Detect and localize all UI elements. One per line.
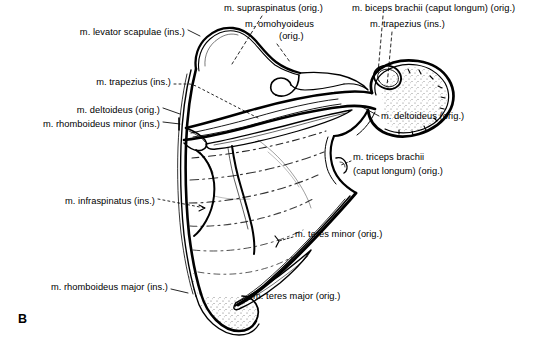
label-deltoideus-origin-left: m. deltoideus (orig.) [77,105,160,117]
scapula-body-outline [178,28,454,335]
label-infraspinatus: m. infraspinatus (ins.) [65,196,155,208]
label-teres-major: m. teres major (orig.) [253,291,340,303]
label-omohyoideus-line1: m. omohyoideus [245,19,314,31]
label-deltoideus-origin-right: m. deltoideus (orig.) [381,111,464,123]
leader-omohyoideus [277,44,290,62]
label-supraspinatus: m. supraspinatus (orig.) [224,3,323,15]
leader-levator-scapulae [188,30,200,36]
label-omohyoideus-line2: (orig.) [279,31,304,43]
label-rhomboideus-major: m. rhomboideus major (ins.) [51,282,168,294]
label-biceps-brachii: m. biceps brachii (caput longum) (orig.) [352,3,515,15]
leader-deltoideus-left [163,108,180,114]
label-triceps-brachii-line1: m. triceps brachii [353,152,424,164]
panel-letter: B [18,312,27,326]
label-teres-minor: m. teres minor (orig.) [295,229,382,241]
label-triceps-brachii-line2: (caput longum) (orig.) [353,166,443,178]
anatomical-figure-panel: m. levator scapulae (ins.) m. supraspina… [0,0,553,346]
label-levator-scapulae: m. levator scapulae (ins.) [80,27,185,39]
leader-rhomboideus-minor [163,122,180,124]
label-trapezius-insertion-left: m. trapezius (ins.) [96,77,171,89]
label-rhomboideus-minor: m. rhomboideus minor (ins.) [43,119,160,131]
leader-rhomboideus-major [171,289,188,293]
label-trapezius-insertion-upper: m. trapezius (ins.) [370,19,445,31]
